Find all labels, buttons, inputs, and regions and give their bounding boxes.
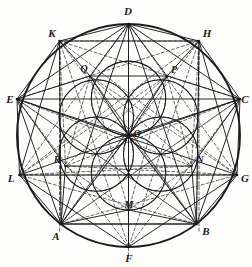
dashed-chord-CF [129,99,241,247]
point-label-Q: Q [80,64,87,74]
point-label-A: A [52,231,59,242]
point-label-H: H [203,28,212,39]
chord-BG [197,175,238,224]
point-label-B: B [202,226,209,237]
point-label-D: D [124,6,132,17]
vertex-dot-P [166,75,169,78]
point-label-N: N [196,155,203,165]
geometry-figure: DHCGBFALEKOQPRNM [0,0,252,267]
chord-GF [129,175,238,247]
point-label-K: K [48,28,55,39]
point-label-M: M [125,200,134,210]
vertex-dot-L [18,174,21,177]
chord-HB [197,41,200,224]
point-label-C: C [241,94,248,105]
vertex-dot-K [58,40,61,43]
vertex-dot-B [195,223,198,226]
vertex-dot-N [190,165,193,168]
dashed-chord-RM [66,166,129,210]
chord-LA [20,175,62,224]
point-label-R: R [54,155,61,165]
vertex-dot-D [127,23,130,26]
vertex-dot-O [127,134,130,137]
vertex-dot-G [236,174,239,177]
vertex-dot-A [60,223,63,226]
chord-HG [199,41,237,175]
point-label-O: O [133,129,140,139]
vertex-dot-H [198,40,201,43]
vertex-dot-F [127,246,130,249]
point-label-G: G [241,173,249,184]
point-label-E: E [6,94,13,105]
point-label-F: F [125,253,132,264]
dashed-chord-EF [17,99,129,247]
geometry-canvas [0,0,252,267]
point-label-L: L [8,173,15,184]
vertex-dot-Q [89,75,92,78]
point-label-P: P [171,65,177,75]
vertex-dot-R [64,165,67,168]
vertex-dot-E [16,98,19,101]
